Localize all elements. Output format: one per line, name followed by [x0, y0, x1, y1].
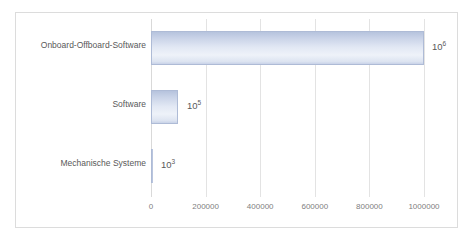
gridline-1000000	[424, 19, 425, 197]
value-label-exponent: 3	[172, 158, 176, 165]
bar-onboard-offboard-software[interactable]	[151, 31, 424, 65]
category-axis-labels: Onboard-Offboard-Software Software Mecha…	[16, 19, 146, 197]
category-label-mechanische-systeme: Mechanische Systeme	[60, 159, 146, 168]
value-label-onboard-offboard-software: 106	[432, 42, 446, 52]
x-tick-label-200000: 200000	[192, 203, 219, 211]
category-label-onboard-offboard-software: Onboard-Offboard-Software	[41, 41, 146, 50]
bar-software[interactable]	[151, 90, 178, 124]
value-label-base: 10	[187, 100, 198, 111]
value-label-exponent: 5	[198, 99, 202, 106]
x-tick-label-800000: 800000	[356, 203, 383, 211]
x-tick-label-600000: 600000	[301, 203, 328, 211]
value-label-base: 10	[161, 159, 172, 170]
x-tick-label-1000000: 1000000	[408, 203, 439, 211]
plot-area: 106 105 103	[151, 19, 439, 197]
chart-frame: Onboard-Offboard-Software Software Mecha…	[15, 12, 458, 228]
x-tick-label-400000: 400000	[247, 203, 274, 211]
category-label-software: Software	[112, 100, 146, 109]
value-label-base: 10	[432, 41, 443, 52]
value-label-software: 105	[187, 101, 201, 111]
x-axis-tick-labels: 0 200000 400000 600000 800000 1000000	[151, 203, 439, 219]
value-label-mechanische-systeme: 103	[161, 160, 175, 170]
value-label-exponent: 6	[443, 40, 447, 47]
x-tick-label-0: 0	[149, 203, 153, 211]
bar-mechanische-systeme[interactable]	[151, 149, 153, 183]
